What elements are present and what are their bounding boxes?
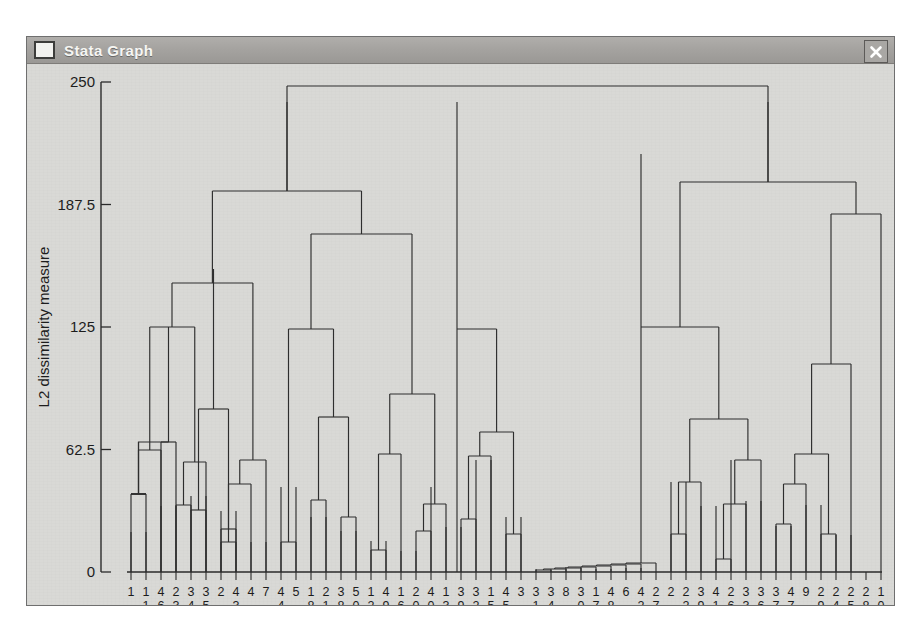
dendrogram-plot: 250 187.5 125 62.5 0 L2 dissimilarity me…	[27, 64, 894, 605]
x-tick-label-bottom: 8	[863, 599, 870, 605]
x-tick-label-top: 1	[128, 585, 135, 599]
x-tick-label-bottom: 7	[788, 599, 795, 605]
x-tick-label-bottom: 1	[533, 599, 540, 605]
x-tick-label-top: 2	[653, 585, 660, 599]
x-tick-marks	[131, 572, 881, 580]
x-tick-label-top: 2	[833, 585, 840, 599]
x-tick-label-bottom: 3	[743, 599, 750, 605]
close-button[interactable]	[864, 40, 888, 63]
x-tick-label-top: 3	[338, 585, 345, 599]
x-tick-label-top: 1	[308, 585, 315, 599]
x-tick-label-top: 2	[848, 585, 855, 599]
screenshot-root: Stata Graph 250 187.5	[0, 0, 923, 640]
x-tick-label-top: 6	[623, 585, 630, 599]
x-tick-label-bottom: 8	[308, 599, 315, 605]
graph-canvas: 250 187.5 125 62.5 0 L2 dissimilarity me…	[27, 64, 894, 605]
close-icon	[869, 45, 883, 59]
x-tick-label-bottom: 4	[833, 599, 840, 605]
x-tick-label-bottom: 4	[278, 599, 285, 605]
x-tick-label-bottom: 8	[608, 599, 615, 605]
x-tick-label-bottom: 7	[593, 599, 600, 605]
x-tick-label-top: 1	[398, 585, 405, 599]
x-tick-label-bottom: 2	[368, 599, 375, 605]
x-tick-label-top: 1	[488, 585, 495, 599]
window-document-icon	[34, 41, 55, 59]
x-tick-label-top: 3	[473, 585, 480, 599]
x-tick-label-top: 3	[698, 585, 705, 599]
x-tick-label-top: 1	[443, 585, 450, 599]
x-tick-label-top: 4	[158, 585, 165, 599]
x-tick-label-top: 3	[188, 585, 195, 599]
x-axis	[127, 572, 882, 580]
x-tick-label-bottom: 9	[383, 599, 390, 605]
x-tick-label-bottom: 9	[698, 599, 705, 605]
x-tick-label-bottom: 7	[653, 599, 660, 605]
x-tick-label-bottom: 1	[143, 599, 150, 605]
x-tick-label-top: 4	[713, 585, 720, 599]
x-tick-label-top: 4	[248, 585, 255, 599]
x-tick-label-top: 2	[728, 585, 735, 599]
x-tick-label-top: 3	[743, 585, 750, 599]
x-tick-label-bottom: 5	[203, 599, 210, 605]
x-tick-label-top: 2	[218, 585, 225, 599]
x-tick-label-bottom: 4	[188, 599, 195, 605]
x-tick-label-top: 1	[878, 585, 885, 599]
x-tick-label-top: 4	[278, 585, 285, 599]
x-tick-label-top: 4	[608, 585, 615, 599]
y-tick-label: 187.5	[57, 196, 95, 213]
x-tick-label-top: 2	[323, 585, 330, 599]
x-tick-label-top: 2	[173, 585, 180, 599]
x-tick-label-top: 3	[578, 585, 585, 599]
x-tick-label-bottom: 0	[578, 599, 585, 605]
x-tick-label-bottom: 5	[848, 599, 855, 605]
x-tick-label-bottom: 0	[878, 599, 885, 605]
dendrogram-root-link	[287, 86, 768, 191]
y-tick-label: 250	[70, 73, 95, 90]
x-tick-label-bottom: 6	[728, 599, 735, 605]
dendrogram-links-left	[131, 102, 521, 572]
x-tick-label-bottom: 7	[773, 599, 780, 605]
x-tick-label-top: 2	[683, 585, 690, 599]
x-tick-label-top: 2	[668, 585, 675, 599]
x-tick-label-top: 1	[368, 585, 375, 599]
x-tick-label-top: 1	[593, 585, 600, 599]
x-tick-label-top: 3	[518, 585, 525, 599]
x-tick-label-bottom: 9	[458, 599, 465, 605]
x-tick-label-bottom: 2	[638, 599, 645, 605]
x-tick-label-bottom: 6	[158, 599, 165, 605]
x-tick-label-top: 5	[293, 585, 300, 599]
x-tick-label-top: 4	[428, 585, 435, 599]
x-tick-label-bottom: 3	[233, 599, 240, 605]
x-tick-label-top: 2	[818, 585, 825, 599]
x-tick-label-top: 3	[533, 585, 540, 599]
x-tick-label-top: 1	[143, 585, 150, 599]
x-tick-label-top: 5	[353, 585, 360, 599]
stata-graph-window: Stata Graph 250 187.5	[26, 36, 895, 606]
x-tick-label-bottom: 0	[413, 599, 420, 605]
x-tick-label-bottom: 2	[473, 599, 480, 605]
x-tick-label-bottom: 1	[323, 599, 330, 605]
x-tick-label-top: 4	[638, 585, 645, 599]
x-tick-label-bottom: 3	[443, 599, 450, 605]
x-tick-label-top: 4	[383, 585, 390, 599]
x-tick-label-top: 3	[773, 585, 780, 599]
x-tick-label-bottom: 4	[548, 599, 555, 605]
x-tick-label-top: 4	[503, 585, 510, 599]
x-tick-label-bottom: 2	[683, 599, 690, 605]
x-tick-label-bottom: 9	[818, 599, 825, 605]
x-tick-label-top: 4	[233, 585, 240, 599]
x-tick-label-top: 7	[263, 585, 270, 599]
x-tick-label-top: 3	[758, 585, 765, 599]
window-titlebar[interactable]: Stata Graph	[27, 37, 894, 64]
y-axis: 250 187.5 125 62.5 0 L2 dissimilarity me…	[35, 73, 111, 580]
x-tick-labels: 1 1 1 4 6 2 3 3 4 3 5 2 4 3 4	[128, 585, 885, 605]
x-tick-label-bottom: 5	[503, 599, 510, 605]
x-tick-label-bottom: 1	[713, 599, 720, 605]
dendrogram-links-right	[457, 102, 881, 572]
window-title: Stata Graph	[64, 42, 153, 59]
x-tick-label-bottom: 6	[758, 599, 765, 605]
x-tick-label-top: 9	[803, 585, 810, 599]
y-tick-label: 62.5	[66, 441, 95, 458]
x-tick-label-top: 3	[548, 585, 555, 599]
y-tick-label: 0	[87, 563, 95, 580]
